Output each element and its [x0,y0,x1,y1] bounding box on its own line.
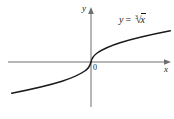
x-axis [8,59,171,65]
graph-canvas [0,0,174,119]
radicand: x [141,13,146,25]
radical-index: 3 [135,14,138,20]
equation-equals-sign: = [123,14,133,25]
x-axis-label: x [164,65,168,74]
curve-equation-label: y=3√x [119,15,146,25]
origin-label: 0 [93,64,97,72]
y-axis-label: y [82,4,86,13]
math-figure-cube-root-graph: y x 0 y=3√x [0,0,174,119]
y-axis-arrowhead [88,7,94,14]
